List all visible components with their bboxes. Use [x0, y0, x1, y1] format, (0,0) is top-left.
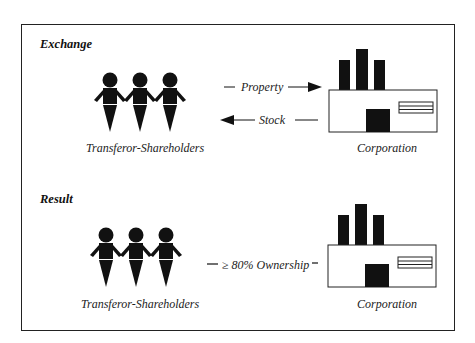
- people-holding-hands-icon: [90, 228, 182, 288]
- result-corporation-label: Corporation: [357, 297, 417, 312]
- exchange-shareholders-label: Transferor-Shareholders: [86, 141, 204, 156]
- people-holding-hands-icon: [94, 73, 186, 133]
- stock-label: Stock: [259, 113, 285, 128]
- factory-icon: [328, 204, 436, 287]
- exchange-title: Exchange: [40, 37, 92, 52]
- factory-icon: [329, 49, 437, 132]
- property-label: Property: [241, 80, 283, 95]
- ownership-label: ≥ 80% Ownership: [222, 258, 309, 273]
- result-title: Result: [40, 192, 73, 207]
- exchange-corporation-label: Corporation: [357, 141, 417, 156]
- result-shareholders-label: Transferor-Shareholders: [81, 297, 199, 312]
